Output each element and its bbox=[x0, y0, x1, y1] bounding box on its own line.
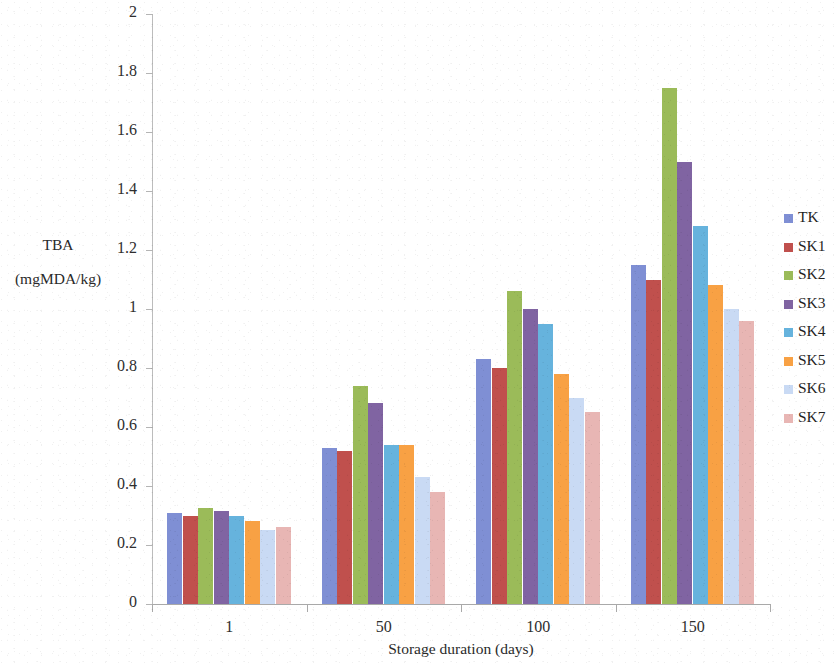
bar-sk2-50 bbox=[353, 386, 368, 604]
y-axis-tick: 0.2 bbox=[146, 545, 153, 546]
bar-sk3-100 bbox=[523, 309, 538, 604]
legend-item-sk6[interactable]: SK6 bbox=[784, 377, 838, 406]
bar-sk4-50 bbox=[384, 445, 399, 604]
x-axis-tick bbox=[616, 604, 617, 612]
legend-item-sk2[interactable]: SK2 bbox=[784, 263, 838, 292]
bar-sk6-100 bbox=[569, 398, 584, 605]
bar-sk1-150 bbox=[646, 280, 661, 605]
x-axis-tick bbox=[152, 604, 153, 612]
y-axis-tick: 2 bbox=[146, 14, 153, 15]
y-axis-tick-label: 0.4 bbox=[87, 475, 137, 493]
legend-label: SK4 bbox=[798, 320, 826, 342]
y-axis-tick: 1.4 bbox=[146, 191, 153, 192]
y-axis-tick-label: 0.6 bbox=[87, 416, 137, 434]
bar-sk1-100 bbox=[492, 368, 507, 604]
bar-sk3-50 bbox=[368, 403, 383, 604]
legend-swatch-icon bbox=[784, 243, 793, 252]
legend-swatch-icon bbox=[784, 214, 793, 223]
y-axis-tick: 1 bbox=[146, 309, 153, 310]
legend-label: SK3 bbox=[798, 292, 826, 314]
legend-label: SK5 bbox=[798, 349, 826, 371]
bar-sk3-1 bbox=[214, 511, 229, 604]
bar-sk4-100 bbox=[538, 324, 553, 604]
bar-sk5-1 bbox=[245, 521, 260, 604]
legend-label: SK1 bbox=[798, 235, 826, 257]
y-axis-tick-label: 1.2 bbox=[87, 239, 137, 257]
x-axis-tick bbox=[461, 604, 462, 612]
bar-sk6-50 bbox=[415, 477, 430, 604]
bar-sk4-150 bbox=[693, 226, 708, 604]
y-axis-tick: 0.4 bbox=[146, 486, 153, 487]
bar-sk7-1 bbox=[276, 527, 291, 604]
bar-sk7-100 bbox=[585, 412, 600, 604]
bar-sk4-1 bbox=[229, 516, 244, 605]
legend-swatch-icon bbox=[784, 414, 793, 423]
bar-sk3-150 bbox=[677, 162, 692, 605]
legend-item-tk[interactable]: TK bbox=[784, 206, 838, 235]
legend-item-sk1[interactable]: SK1 bbox=[784, 235, 838, 264]
x-axis-tick-label: 150 bbox=[633, 618, 753, 636]
bar-sk7-50 bbox=[430, 492, 445, 604]
bar-sk2-150 bbox=[662, 88, 677, 604]
legend-item-sk5[interactable]: SK5 bbox=[784, 349, 838, 378]
plot-area: 00.20.40.60.811.21.41.61.82 150100150 bbox=[152, 14, 770, 604]
legend-swatch-icon bbox=[784, 300, 793, 309]
legend-swatch-icon bbox=[784, 271, 793, 280]
bar-sk2-1 bbox=[198, 508, 213, 604]
y-axis-tick: 1.6 bbox=[146, 132, 153, 133]
x-axis-tick bbox=[770, 604, 771, 612]
y-axis-tick: 0.6 bbox=[146, 427, 153, 428]
bar-sk5-100 bbox=[554, 374, 569, 604]
bar-tk-1 bbox=[167, 513, 182, 604]
legend-label: TK bbox=[798, 206, 819, 228]
legend: TKSK1SK2SK3SK4SK5SK6SK7 bbox=[784, 206, 838, 434]
y-axis-tick-label: 2 bbox=[87, 3, 137, 21]
y-axis-tick: 0.8 bbox=[146, 368, 153, 369]
y-axis-tick: 1.8 bbox=[146, 73, 153, 74]
bar-sk6-1 bbox=[260, 530, 275, 604]
y-axis-title-line2: (mgMDA/kg) bbox=[6, 262, 110, 296]
legend-label: SK6 bbox=[798, 377, 826, 399]
y-axis-tick-label: 1.4 bbox=[87, 180, 137, 198]
bar-sk7-150 bbox=[739, 321, 754, 604]
bar-tk-50 bbox=[322, 448, 337, 604]
legend-swatch-icon bbox=[784, 357, 793, 366]
bar-chart: TBA (mgMDA/kg) 00.20.40.60.811.21.41.61.… bbox=[0, 0, 838, 666]
legend-item-sk4[interactable]: SK4 bbox=[784, 320, 838, 349]
bar-tk-150 bbox=[631, 265, 646, 604]
x-axis-tick-label: 50 bbox=[324, 618, 444, 636]
x-axis-tick-label: 1 bbox=[169, 618, 289, 636]
legend-swatch-icon bbox=[784, 385, 793, 394]
x-axis-tick bbox=[307, 604, 308, 612]
bar-sk1-1 bbox=[183, 516, 198, 605]
legend-label: SK7 bbox=[798, 406, 826, 428]
legend-swatch-icon bbox=[784, 328, 793, 337]
bar-tk-100 bbox=[476, 359, 491, 604]
y-axis-tick-label: 1.6 bbox=[87, 121, 137, 139]
y-axis-tick-label: 1.8 bbox=[87, 62, 137, 80]
y-axis-tick-label: 0.8 bbox=[87, 357, 137, 375]
bar-sk6-150 bbox=[724, 309, 739, 604]
y-axis-tick-label: 1 bbox=[87, 298, 137, 316]
legend-label: SK2 bbox=[798, 263, 826, 285]
y-axis-tick: 1.2 bbox=[146, 250, 153, 251]
legend-item-sk7[interactable]: SK7 bbox=[784, 406, 838, 435]
legend-item-sk3[interactable]: SK3 bbox=[784, 292, 838, 321]
x-axis-title: Storage duration (days) bbox=[152, 640, 770, 658]
bar-sk2-100 bbox=[507, 291, 522, 604]
y-axis-tick-label: 0.2 bbox=[87, 534, 137, 552]
bar-sk5-150 bbox=[708, 285, 723, 604]
bar-sk5-50 bbox=[399, 445, 414, 604]
y-axis-tick-label: 0 bbox=[87, 593, 137, 611]
x-axis-tick-label: 100 bbox=[478, 618, 598, 636]
bar-sk1-50 bbox=[337, 451, 352, 604]
